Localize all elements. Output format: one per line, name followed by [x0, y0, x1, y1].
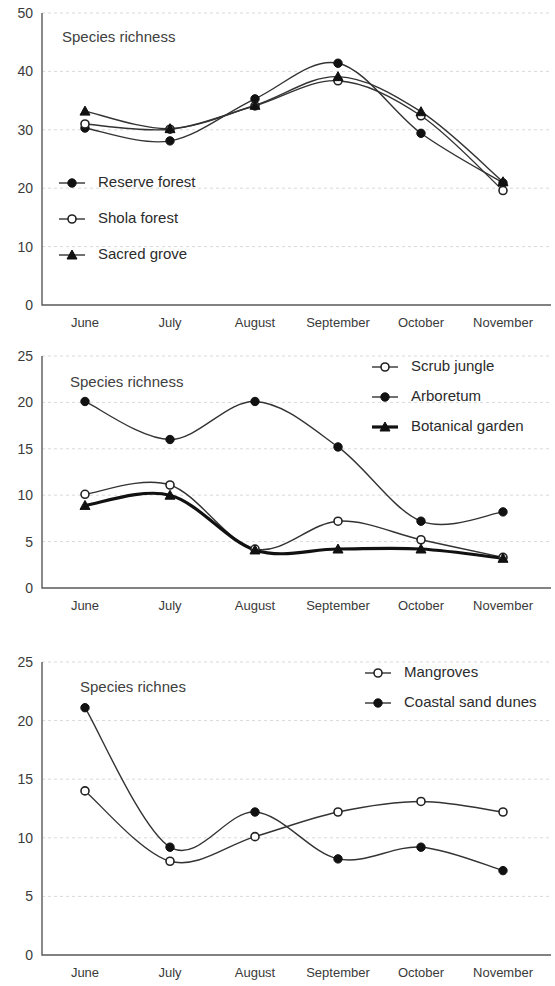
data-point-open-circle: [81, 490, 89, 498]
x-axis-tick-label: September: [306, 598, 370, 613]
x-axis-tick-label: July: [158, 965, 182, 980]
data-point-open-circle: [499, 808, 507, 816]
species-richness-chart-coastal: 0510152025JuneJulyAugustSeptemberOctober…: [0, 645, 555, 986]
data-point-open-circle: [374, 669, 382, 677]
y-axis-tick-label: 20: [17, 394, 33, 410]
data-point-open-circle: [499, 187, 507, 195]
y-axis-tick-label: 30: [17, 122, 33, 138]
data-point-filled-circle: [417, 843, 425, 851]
species-richness-chart-scrub: 0510152025JuneJulyAugustSeptemberOctober…: [0, 340, 555, 645]
x-axis-tick-label: September: [306, 315, 370, 330]
chart-3-canvas: 0510152025JuneJulyAugustSeptemberOctober…: [0, 645, 555, 986]
data-point-open-circle: [381, 363, 389, 371]
chart-title: Species richnes: [80, 678, 186, 695]
x-axis-tick-label: August: [235, 598, 276, 613]
x-axis-tick-label: October: [398, 965, 445, 980]
x-axis-tick-label: September: [306, 965, 370, 980]
legend-entry-label: Arboretum: [411, 387, 481, 404]
data-point-filled-circle: [251, 808, 259, 816]
x-axis-tick-label: July: [158, 598, 182, 613]
chart-1-canvas: 01020304050JuneJulyAugustSeptemberOctobe…: [0, 0, 555, 340]
y-axis-tick-label: 5: [25, 888, 33, 904]
data-point-filled-circle: [166, 435, 174, 443]
x-axis-tick-label: August: [235, 965, 276, 980]
y-axis-tick-label: 20: [17, 180, 33, 196]
y-axis-tick-label: 15: [17, 441, 33, 457]
x-axis-tick-label: June: [71, 598, 99, 613]
data-point-filled-circle: [166, 137, 174, 145]
data-point-filled-circle: [374, 699, 382, 707]
x-axis-tick-label: July: [158, 315, 182, 330]
data-point-filled-circle: [381, 393, 389, 401]
y-axis-tick-label: 0: [25, 947, 33, 963]
legend-entry-label: Mangroves: [404, 663, 478, 680]
data-point-open-circle: [68, 215, 76, 223]
legend-entry-label: Reserve forest: [98, 173, 196, 190]
y-axis-tick-label: 25: [17, 654, 33, 670]
legend-entry-label: Sacred grove: [98, 245, 187, 262]
y-axis-tick-label: 10: [17, 487, 33, 503]
data-point-filled-circle: [499, 866, 507, 874]
legend-entry-label: Coastal sand dunes: [404, 693, 537, 710]
data-point-filled-circle: [417, 129, 425, 137]
data-point-triangle: [416, 107, 426, 116]
data-point-open-circle: [251, 833, 259, 841]
data-point-filled-circle: [81, 704, 89, 712]
data-point-filled-circle: [334, 59, 342, 67]
series-line: [85, 62, 503, 182]
y-axis-tick-label: 40: [17, 63, 33, 79]
data-point-open-circle: [334, 517, 342, 525]
y-axis-tick-label: 15: [17, 771, 33, 787]
data-point-filled-circle: [251, 397, 259, 405]
chart-2-canvas: 0510152025JuneJulyAugustSeptemberOctober…: [0, 340, 555, 645]
x-axis-tick-label: November: [473, 965, 534, 980]
data-point-open-circle: [166, 857, 174, 865]
data-point-filled-circle: [81, 397, 89, 405]
data-point-filled-circle: [334, 443, 342, 451]
chart-title: Species richness: [62, 28, 175, 45]
x-axis-tick-label: October: [398, 598, 445, 613]
series-line: [85, 493, 503, 558]
y-axis-tick-label: 20: [17, 713, 33, 729]
y-axis-tick-label: 0: [25, 297, 33, 313]
legend-entry-label: Scrub jungle: [411, 357, 494, 374]
x-axis-tick-label: June: [71, 965, 99, 980]
y-axis-tick-label: 5: [25, 534, 33, 550]
data-point-filled-circle: [166, 843, 174, 851]
series-line: [85, 708, 503, 871]
data-point-open-circle: [417, 797, 425, 805]
data-point-filled-circle: [499, 508, 507, 516]
legend-entry-label: Shola forest: [98, 209, 179, 226]
x-axis-tick-label: October: [398, 315, 445, 330]
data-point-open-circle: [334, 808, 342, 816]
chart-title: Species richness: [70, 373, 183, 390]
data-point-open-circle: [417, 536, 425, 544]
data-point-filled-circle: [68, 179, 76, 187]
x-axis-tick-label: November: [473, 598, 534, 613]
species-richness-chart-forest: 01020304050JuneJulyAugustSeptemberOctobe…: [0, 0, 555, 340]
data-point-open-circle: [81, 120, 89, 128]
y-axis-tick-label: 10: [17, 830, 33, 846]
legend-entry-label: Botanical garden: [411, 417, 524, 434]
data-point-open-circle: [166, 481, 174, 489]
x-axis-tick-label: June: [71, 315, 99, 330]
data-point-triangle: [80, 106, 90, 115]
x-axis-tick-label: August: [235, 315, 276, 330]
data-point-open-circle: [81, 787, 89, 795]
y-axis-tick-label: 25: [17, 348, 33, 364]
y-axis-tick-label: 50: [17, 5, 33, 21]
data-point-filled-circle: [417, 517, 425, 525]
x-axis-tick-label: November: [473, 315, 534, 330]
series-line: [85, 791, 503, 863]
data-point-filled-circle: [334, 855, 342, 863]
y-axis-tick-label: 0: [25, 580, 33, 596]
y-axis-tick-label: 10: [17, 239, 33, 255]
